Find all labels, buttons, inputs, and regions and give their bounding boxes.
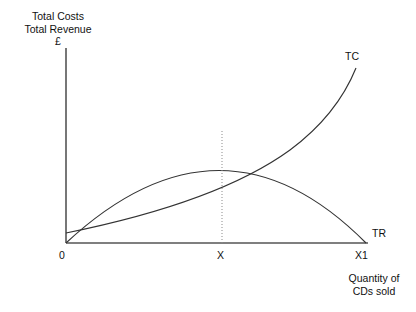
y-axis-title-line-1: Total Costs <box>32 10 84 22</box>
total-revenue-curve <box>66 171 366 244</box>
x-axis-title-line-1: Quantity of <box>349 272 400 284</box>
y-axis-title: Total CostsTotal Revenue£ <box>12 10 104 48</box>
x-tick-label-x1: X1 <box>355 249 368 262</box>
tr-curve-label: TR <box>372 227 386 240</box>
x-tick-label-origin: 0 <box>59 249 65 262</box>
x-axis-title: Quantity ofCDs sold <box>336 272 412 297</box>
break-even-chart-figure: Total CostsTotal Revenue£ 0 X X1 TC TR Q… <box>0 0 416 312</box>
y-axis-title-line-2: Total Revenue <box>24 23 91 35</box>
x-tick-label-x: X <box>217 249 224 262</box>
tc-curve-label: TC <box>345 50 359 63</box>
x-axis-title-line-2: CDs sold <box>353 285 396 297</box>
y-axis-title-line-3: £ <box>55 35 61 47</box>
